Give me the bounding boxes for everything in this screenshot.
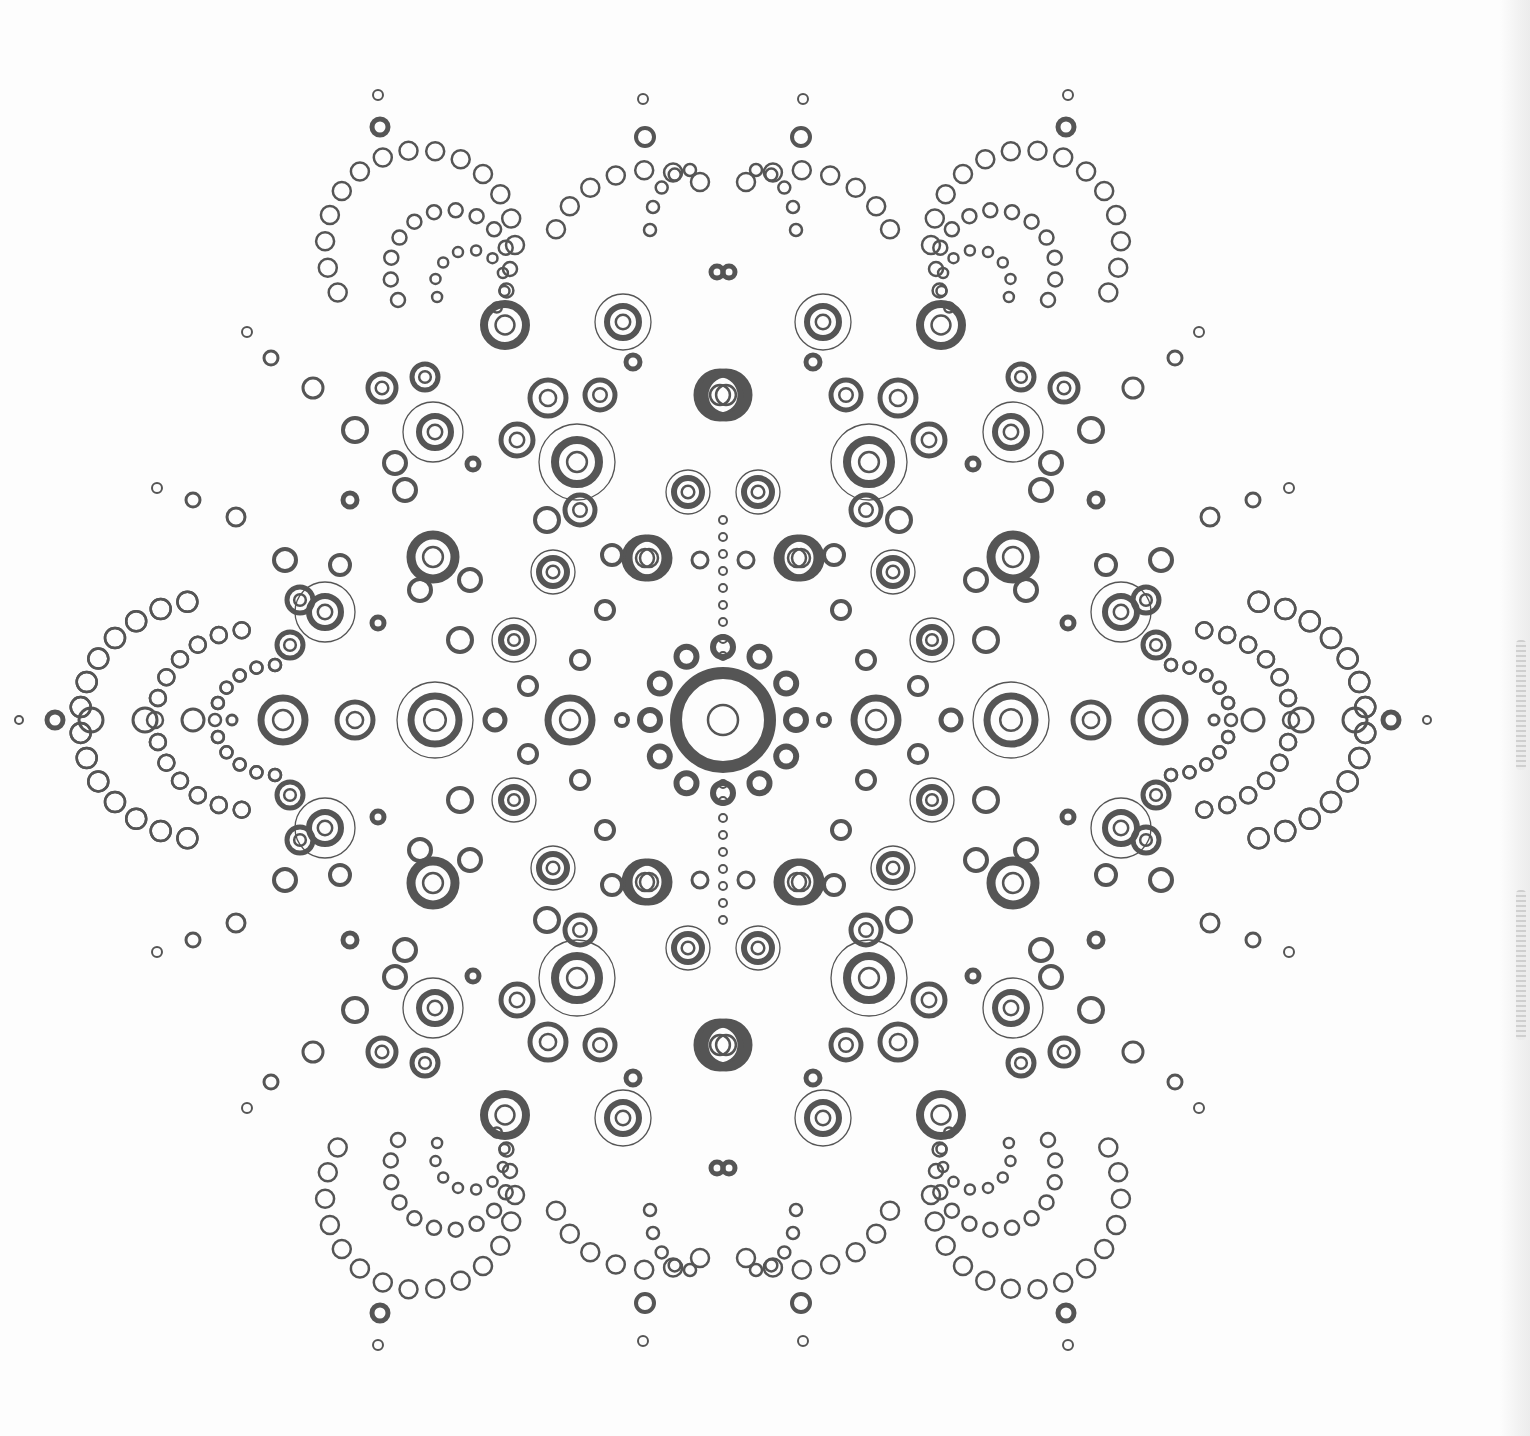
- dot-rings: [15, 90, 1431, 1350]
- mandala-artwork: [0, 0, 1530, 1436]
- print-smudge: [1516, 890, 1526, 1040]
- print-smudge: [1516, 640, 1526, 770]
